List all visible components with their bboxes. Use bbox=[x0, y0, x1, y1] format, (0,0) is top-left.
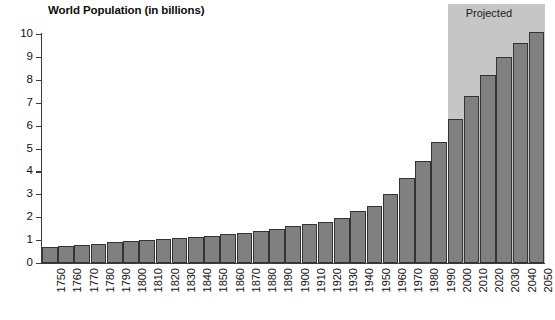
bar bbox=[383, 194, 399, 263]
y-axis-tick-label: 0 bbox=[3, 256, 33, 268]
x-axis-tick-label: 1840 bbox=[201, 268, 213, 292]
bar bbox=[367, 206, 383, 263]
x-axis-tick-label: 1800 bbox=[136, 268, 148, 292]
x-axis-tick-label: 2020 bbox=[493, 268, 505, 292]
projected-label: Projected bbox=[466, 7, 512, 19]
bar bbox=[334, 218, 350, 263]
x-axis-tick-label: 1950 bbox=[380, 268, 392, 292]
bar bbox=[139, 240, 155, 263]
x-axis-tick-label: 1980 bbox=[428, 268, 440, 292]
x-axis-tick-label: 1930 bbox=[347, 268, 359, 292]
y-axis-tick-label: 4 bbox=[3, 164, 33, 176]
x-axis-tick-label: 1920 bbox=[331, 268, 343, 292]
x-axis-tick-label: 1750 bbox=[55, 268, 67, 292]
bar bbox=[415, 161, 431, 263]
world-population-bar-chart: World Population (in billions) 012345678… bbox=[0, 0, 555, 320]
bar bbox=[123, 241, 139, 263]
x-axis-line bbox=[41, 263, 545, 264]
y-axis-tick-label: 6 bbox=[3, 118, 33, 130]
bar bbox=[188, 237, 204, 263]
x-axis-tick-label: 1810 bbox=[152, 268, 164, 292]
bar bbox=[350, 211, 366, 263]
y-axis-tick-label: 5 bbox=[3, 141, 33, 153]
bar bbox=[431, 142, 447, 263]
x-axis-tick-label: 2000 bbox=[461, 268, 473, 292]
bar bbox=[496, 57, 512, 263]
bar bbox=[269, 229, 285, 263]
bar bbox=[172, 238, 188, 263]
x-axis-tick-label: 2050 bbox=[542, 268, 554, 292]
bar bbox=[42, 247, 58, 263]
x-axis-tick-label: 1940 bbox=[363, 268, 375, 292]
bar bbox=[204, 236, 220, 263]
bar bbox=[237, 233, 253, 263]
bar bbox=[448, 119, 464, 263]
bar bbox=[91, 244, 107, 263]
x-axis-tick-label: 1780 bbox=[104, 268, 116, 292]
x-axis-tick-label: 1990 bbox=[445, 268, 457, 292]
bar bbox=[529, 32, 545, 263]
y-axis-tick-label: 9 bbox=[3, 49, 33, 61]
bar bbox=[302, 224, 318, 263]
bar bbox=[253, 231, 269, 263]
x-axis-tick-label: 1900 bbox=[299, 268, 311, 292]
x-axis-tick-label: 1830 bbox=[185, 268, 197, 292]
x-axis-tick-label: 1770 bbox=[88, 268, 100, 292]
y-axis-tick bbox=[36, 263, 42, 264]
x-axis-tick-label: 2040 bbox=[526, 268, 538, 292]
x-axis-tick-label: 1960 bbox=[396, 268, 408, 292]
y-axis-tick-label: 3 bbox=[3, 187, 33, 199]
x-axis-tick-label: 1860 bbox=[234, 268, 246, 292]
bar bbox=[156, 239, 172, 263]
chart-title: World Population (in billions) bbox=[48, 4, 205, 16]
x-axis-tick-label: 1870 bbox=[250, 268, 262, 292]
y-axis-tick-label: 7 bbox=[3, 95, 33, 107]
bar bbox=[220, 234, 236, 263]
plot-area: Projected bbox=[42, 34, 545, 263]
x-axis-tick-label: 1850 bbox=[217, 268, 229, 292]
y-axis-tick-label: 2 bbox=[3, 210, 33, 222]
x-axis-tick-label: 1880 bbox=[266, 268, 278, 292]
bar bbox=[480, 75, 496, 263]
bar bbox=[464, 96, 480, 263]
bar bbox=[107, 242, 123, 263]
bar bbox=[318, 222, 334, 263]
y-axis-tick-label: 1 bbox=[3, 233, 33, 245]
bar bbox=[513, 43, 529, 263]
x-axis-tick-label: 1760 bbox=[71, 268, 83, 292]
x-axis-tick-label: 2010 bbox=[477, 268, 489, 292]
y-axis-tick-label: 10 bbox=[3, 27, 33, 39]
y-axis-tick-label: 8 bbox=[3, 72, 33, 84]
x-axis-tick-label: 1890 bbox=[282, 268, 294, 292]
x-axis-tick-label: 2030 bbox=[509, 268, 521, 292]
x-axis-tick-label: 1910 bbox=[315, 268, 327, 292]
x-axis-tick-label: 1970 bbox=[412, 268, 424, 292]
bar bbox=[399, 178, 415, 263]
x-axis-tick-label: 1820 bbox=[169, 268, 181, 292]
bar bbox=[74, 245, 90, 263]
x-axis-tick-label: 1790 bbox=[120, 268, 132, 292]
bar bbox=[285, 226, 301, 263]
bar bbox=[58, 246, 74, 263]
